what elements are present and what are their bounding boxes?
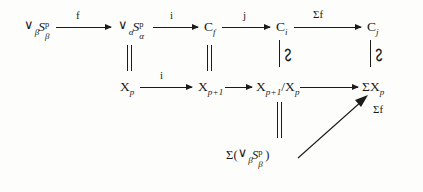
wedge-symbol: ∨ xyxy=(238,145,248,160)
wedge-symbol: ∨ xyxy=(24,17,34,32)
node-C-f: Cf xyxy=(204,20,216,34)
space-symbol: X xyxy=(198,79,208,94)
cone-symbol: C xyxy=(367,19,376,34)
arrow-quotient-to-SigmaXp xyxy=(300,87,358,88)
cone-subscript: f xyxy=(213,27,216,37)
iso-squiggle: ∾ xyxy=(279,47,298,63)
wedge-index-alpha: α xyxy=(129,27,134,37)
node-C-j: Cj xyxy=(367,20,379,34)
arrow-label-sigma-f-diagonal: Σf xyxy=(373,104,383,115)
node-wedge-beta-S: ∨βSpβ xyxy=(24,20,45,34)
commutative-diagram: ∨βSpβ ∨αSpα Cf Ci Cj f i j Σf ∾ ∾ Xp Xp+… xyxy=(0,0,423,192)
wedge-index-beta: β xyxy=(35,27,40,37)
space-subscript: p+1 xyxy=(208,87,223,97)
sphere-subscript: β xyxy=(45,32,50,41)
node-wedge-alpha-S: ∨αSpα xyxy=(118,20,139,34)
space-symbol: X xyxy=(120,79,130,94)
space-subscript: p xyxy=(380,87,385,97)
space-symbol: X xyxy=(256,79,266,94)
sphere-subscript: β xyxy=(258,160,263,169)
space-subscript: p xyxy=(130,87,135,97)
equality-quotient-to-suspension xyxy=(277,102,282,138)
arrow-label-f: f xyxy=(76,10,80,21)
cone-subscript: i xyxy=(285,27,288,37)
sphere-subscript: α xyxy=(139,32,144,41)
arrow-f xyxy=(56,27,111,28)
iso-Cj-to-SigmaXp: ∾ xyxy=(370,40,387,67)
node-X-p: Xp xyxy=(120,80,134,94)
arrow-label-j: j xyxy=(243,10,246,21)
space-symbol-2: X xyxy=(285,79,295,94)
close-paren: ) xyxy=(265,148,269,162)
cone-symbol: C xyxy=(204,19,213,34)
iso-Ci-to-quotient: ∾ xyxy=(279,40,296,67)
iso-squiggle: ∾ xyxy=(370,47,389,63)
wedge-index-beta: β xyxy=(248,155,253,165)
sphere-superscript: p xyxy=(258,148,262,157)
space-symbol: X xyxy=(370,79,380,94)
arrow-label-i-top: i xyxy=(170,10,173,21)
sphere-superscript: p xyxy=(139,20,143,29)
sphere-superscript: p xyxy=(45,20,49,29)
node-C-i: Ci xyxy=(276,20,288,34)
node-X-p-plus-1: Xp+1 xyxy=(198,80,223,94)
arrow-Xp1-to-quotient xyxy=(225,87,252,88)
arrow-i-top xyxy=(153,27,198,28)
sphere-symbol: S xyxy=(132,19,139,34)
arrow-i-bottom xyxy=(140,87,192,88)
wedge-symbol: ∨ xyxy=(118,17,128,32)
arrow-sigma-f-diagonal xyxy=(296,92,370,160)
space-subscript: p+1 xyxy=(266,87,281,97)
equality-wedge-alpha-to-Xp xyxy=(127,45,132,71)
arrow-label-i-bottom: i xyxy=(160,70,163,81)
arrow-label-sigma-f-top: Σf xyxy=(313,9,323,20)
arrow-sigma-f-top xyxy=(294,27,361,28)
equality-Cf-to-Xp1 xyxy=(207,45,212,71)
cone-symbol: C xyxy=(276,19,285,34)
node-X-quotient: Xp+1/Xp xyxy=(256,80,300,94)
cone-subscript: j xyxy=(376,27,379,37)
node-sigma-wedge-beta-S: Σ(∨βSpβ) xyxy=(226,148,270,162)
arrow-j xyxy=(222,27,270,28)
